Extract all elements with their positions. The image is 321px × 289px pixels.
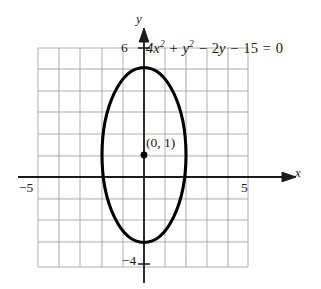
center-point-marker	[141, 152, 148, 159]
x-axis-tick-label-right: 5	[241, 181, 248, 195]
x-axis-arrowhead	[282, 172, 296, 182]
equation-term-3: 2	[212, 40, 219, 56]
axes	[18, 28, 296, 283]
x-axis-label: x	[295, 166, 301, 179]
y-axis-tick-label-bottom: −4	[122, 254, 136, 268]
equation-term-4: 15	[243, 40, 258, 56]
center-point-label: (0, 1)	[146, 136, 175, 150]
graph-figure: 4x2 + y2 − 2y − 15 = 0 y x 6 −4 −5 5 (0,…	[0, 0, 321, 289]
equation-rhs: 0	[276, 40, 283, 56]
equation-label: 4x2 + y2 − 2y − 15 = 0	[146, 40, 283, 55]
x-axis-tick-label-left: −5	[19, 181, 33, 195]
y-axis-tick-label-top: 6	[121, 41, 128, 55]
equation-var-y2: y	[219, 40, 226, 56]
y-axis-label: y	[136, 12, 142, 25]
